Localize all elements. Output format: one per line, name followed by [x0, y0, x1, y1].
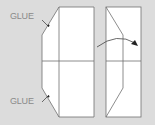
glue-pointer-top	[42, 20, 50, 27]
unfolded-sheet	[42, 7, 94, 117]
glue-label-bottom: GLUE	[10, 96, 34, 106]
folded-sheet	[106, 7, 141, 117]
glue-label-top: GLUE	[10, 11, 34, 21]
